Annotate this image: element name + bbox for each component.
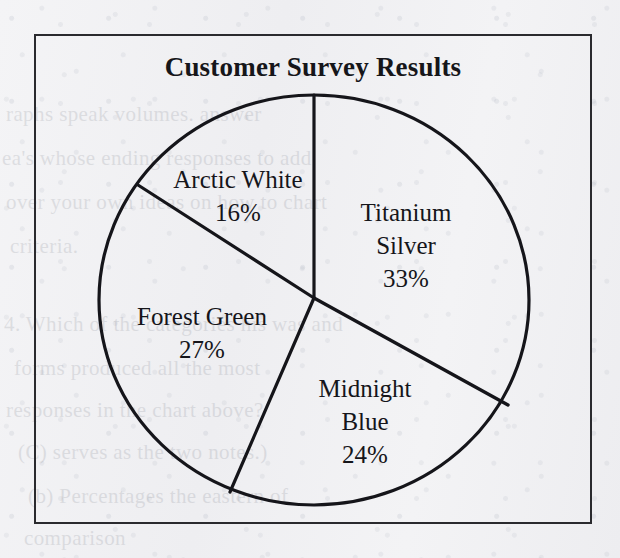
figure-border: Customer Survey Results [34, 34, 592, 524]
chart-title: Customer Survey Results [36, 52, 590, 83]
scanned-figure-page: raphs speak volumes. answer ea's whose e… [0, 0, 620, 558]
